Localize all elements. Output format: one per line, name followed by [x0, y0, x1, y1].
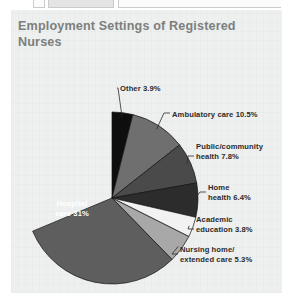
pie-label-ambulatory-care: Ambulatory care 10.5% — [172, 110, 258, 120]
pie-label-nursing-home-extended-care: Nursing home/ extended care 5.3% — [180, 245, 252, 264]
screenshot-root: Employment Settings of Registered Nurses… — [0, 0, 283, 298]
pie-label-other: Other 3.9% — [120, 84, 161, 94]
pie-label-public-community-health: Public/community health 7.8% — [196, 142, 263, 161]
pie-label-hospital-care: Hospital care 31% — [42, 199, 102, 218]
pie-label-academic-education: Academic education 3.8% — [196, 215, 253, 234]
pie-label-home-health: Home health 6.4% — [208, 183, 251, 202]
